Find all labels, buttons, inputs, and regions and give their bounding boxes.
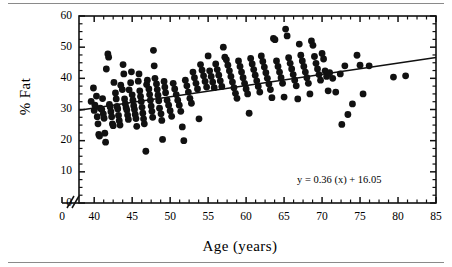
scatter-point — [279, 80, 286, 87]
scatter-point — [338, 121, 345, 128]
scatter-point — [114, 105, 121, 112]
scatter-point — [94, 113, 101, 120]
scatter-point — [120, 61, 127, 68]
scatter-point — [120, 71, 127, 78]
scatter-point — [220, 44, 227, 51]
scatter-point — [320, 56, 327, 63]
scatter-point — [317, 77, 324, 84]
scatter-point — [185, 89, 192, 96]
scatter-point — [125, 116, 132, 123]
scatter-point — [135, 78, 142, 85]
scatter-point — [344, 111, 351, 118]
x-tick-label: 0 — [47, 210, 77, 222]
x-tick-label: 60 — [231, 210, 261, 222]
scatter-point — [117, 122, 124, 129]
scatter-point — [180, 137, 187, 144]
scatter-point — [341, 62, 348, 69]
scatter-point — [162, 89, 169, 96]
scatter-point — [150, 47, 157, 54]
scatter-point — [310, 42, 317, 49]
x-tick-label: 55 — [193, 210, 223, 222]
y-tick-label: 0 — [48, 196, 72, 208]
scatter-point — [155, 97, 162, 104]
scatter-point — [138, 98, 145, 105]
scatter-points — [88, 26, 409, 155]
scatter-point — [158, 110, 165, 117]
y-tick-label: 60 — [48, 9, 72, 21]
scatter-point — [93, 93, 100, 100]
scatter-point — [211, 84, 218, 91]
x-tick-label: 50 — [155, 210, 185, 222]
x-tick-label: 80 — [383, 210, 413, 222]
scatter-point — [244, 91, 251, 98]
y-axis-label: % Fat — [17, 55, 34, 139]
scatter-point — [354, 52, 361, 59]
scatter-point — [269, 94, 276, 101]
scatter-point — [282, 26, 289, 33]
scatter-point — [194, 86, 201, 93]
scatter-point — [360, 91, 367, 98]
y-tick-label: 10 — [48, 164, 72, 176]
scatter-point — [149, 108, 156, 115]
scatter-point — [133, 123, 140, 130]
scatter-point — [332, 89, 339, 96]
scatter-point — [357, 62, 364, 69]
scatter-point — [102, 139, 109, 146]
scatter-point — [307, 91, 314, 98]
scatter-point — [329, 75, 336, 82]
scatter-point — [281, 94, 288, 101]
scatter-point — [296, 41, 303, 48]
scatter-point — [90, 85, 97, 92]
x-tick-label: 75 — [345, 210, 375, 222]
scatter-point — [158, 117, 165, 124]
scatter-point — [205, 52, 212, 59]
scatter-point — [284, 33, 291, 40]
scatter-point — [177, 108, 184, 115]
scatter-point — [111, 79, 118, 86]
scatter-point — [101, 130, 108, 137]
scatter-point — [147, 97, 154, 104]
scatter-point — [267, 86, 274, 93]
scatter-point — [108, 113, 115, 120]
scatter-point — [390, 74, 397, 81]
scatter-point — [142, 148, 149, 155]
y-tick-label: 40 — [48, 71, 72, 83]
scatter-point — [101, 115, 108, 122]
scatter-point — [105, 54, 112, 61]
scatter-point — [311, 53, 318, 60]
scatter-point — [119, 86, 126, 93]
x-tick-label: 85 — [421, 210, 451, 222]
scatter-point — [246, 110, 253, 117]
scatter-point — [366, 62, 373, 69]
scatter-point — [183, 82, 190, 89]
scatter-point — [128, 68, 135, 75]
scatter-point — [141, 120, 148, 127]
scatter-point — [144, 77, 151, 84]
scatter-point — [95, 120, 102, 127]
scatter-point — [305, 80, 312, 87]
scatter-point — [349, 100, 356, 107]
x-tick-label: 70 — [307, 210, 337, 222]
regression-equation-annotation: y = 0.36 (x) + 16.05 — [297, 174, 381, 185]
scatter-point — [176, 102, 183, 109]
x-axis-ticks — [94, 16, 436, 203]
scatter-point — [99, 95, 106, 102]
scatter-point — [139, 104, 146, 111]
x-tick-label: 65 — [269, 210, 299, 222]
scatter-point — [151, 62, 158, 69]
scatter-point — [218, 83, 225, 90]
scatter-point — [159, 136, 166, 143]
scatter-point — [272, 36, 279, 43]
scatter-point — [168, 113, 175, 120]
scatter-point — [149, 114, 156, 121]
scatter-point — [256, 89, 263, 96]
y-tick-label: 50 — [48, 40, 72, 52]
scatter-point — [196, 115, 203, 122]
scatter-point — [136, 71, 143, 78]
y-tick-label: 20 — [48, 133, 72, 145]
figure-container: % Fat Age (years) y = 0.36 (x) + 16.05 0… — [0, 0, 452, 267]
scatter-point — [112, 90, 119, 97]
scatter-point — [110, 122, 117, 129]
scatter-point — [113, 96, 120, 103]
scatter-point — [103, 66, 110, 73]
